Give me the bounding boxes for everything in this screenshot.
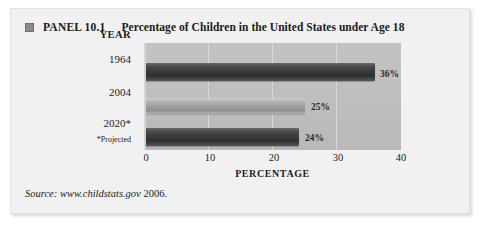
bar-value-2004: 25% — [311, 102, 330, 112]
source-site: www.childstats.gov — [60, 188, 141, 199]
ytick-label-0: 1964 — [11, 53, 131, 65]
bar-1964 — [146, 63, 375, 81]
bar-value-1964: 36% — [380, 69, 399, 79]
xtick-label-40: 40 — [381, 152, 421, 163]
bar-value-2020: 24% — [305, 133, 324, 143]
plot-area — [144, 43, 401, 150]
bar-2004 — [146, 98, 305, 114]
source-year: 2006. — [143, 188, 167, 199]
xtick-label-20: 20 — [254, 152, 294, 163]
bar-2020 — [146, 128, 299, 146]
source-prefix: Source: — [25, 188, 57, 199]
xtick-label-30: 30 — [318, 152, 358, 163]
xtick-label-0: 0 — [126, 152, 166, 163]
bar-chart: YEAR 1964 2004 2020* *Projected 36% 25% … — [11, 9, 471, 215]
ytick-label-1: 2004 — [11, 86, 131, 98]
ytick-label-2: 2020* — [11, 117, 131, 129]
panel-container: PANEL 10.1 Percentage of Children in the… — [10, 8, 470, 214]
footnote-projected: *Projected — [11, 135, 131, 144]
xtick-label-10: 10 — [190, 152, 230, 163]
source-note: Source: www.childstats.gov 2006. — [25, 188, 167, 199]
axis-title-year: YEAR — [11, 29, 131, 40]
gridline-30 — [336, 43, 337, 150]
axis-title-percentage: PERCENTAGE — [144, 168, 401, 179]
